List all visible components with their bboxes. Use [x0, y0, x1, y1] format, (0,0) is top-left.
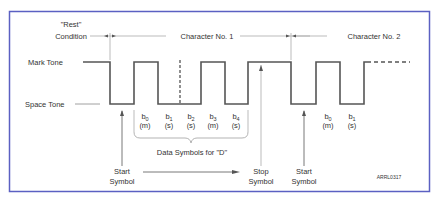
mark-tone-label: Mark Tone [28, 58, 63, 67]
char1-label: Character No. 1 [181, 32, 234, 41]
rest-label-line1: "Rest" [61, 20, 82, 29]
rest-label-line2: Condition [55, 32, 87, 41]
stop-label-line1: Stop [253, 167, 268, 176]
svg-text:(m): (m) [207, 121, 219, 130]
svg-text:(s): (s) [187, 121, 196, 130]
baudot-timing-diagram: "Rest" Condition Character No. 1 Charact… [0, 0, 436, 197]
svg-text:(s): (s) [165, 121, 174, 130]
svg-text:(s): (s) [348, 121, 357, 130]
start2-label-line2: Symbol [291, 177, 316, 186]
start1-label-line1: Start [114, 167, 131, 176]
space-tone-label: Space Tone [25, 100, 64, 109]
svg-text:(m): (m) [139, 121, 151, 130]
stop-label-line2: Symbol [248, 177, 273, 186]
figure-credit: ARRL0317 [377, 174, 402, 180]
svg-text:(s): (s) [232, 121, 241, 130]
char2-label: Character No. 2 [348, 32, 401, 41]
start1-label-line2: Symbol [109, 177, 134, 186]
svg-text:(m): (m) [322, 121, 334, 130]
data-symbols-label: Data Symbols for "D" [157, 148, 228, 157]
start2-label-line1: Start [296, 167, 313, 176]
